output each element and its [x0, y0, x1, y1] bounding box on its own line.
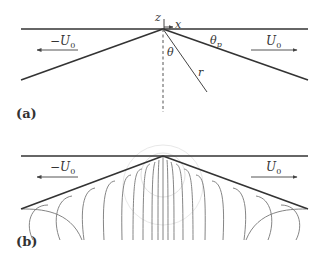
panel-a-label: (a) — [16, 106, 37, 121]
radius-line — [163, 29, 207, 92]
panel-b: −U0 U0 (b) — [0, 145, 327, 261]
right-velocity-label-b: U0 — [266, 160, 281, 176]
left-velocity-label: −U0 — [50, 34, 75, 50]
right-velocity-label: U0 — [266, 34, 281, 50]
z-label: z — [154, 11, 161, 24]
left-velocity-label-b: −U0 — [50, 160, 75, 176]
streamline-mask — [0, 240, 327, 261]
corner-flow-diagram: z x −U0 U0 θp θ r (a) — [0, 0, 327, 261]
theta-label: θ — [167, 46, 174, 59]
panel-b-label: (b) — [16, 234, 37, 249]
panel-a: z x −U0 U0 θp θ r (a) — [16, 11, 308, 121]
right-plate — [163, 29, 308, 80]
x-label: x — [175, 18, 182, 31]
left-plate-b — [21, 156, 163, 209]
left-plate — [21, 29, 163, 80]
theta-p-label: θp — [210, 34, 222, 49]
r-label: r — [198, 66, 204, 79]
right-plate-b — [163, 156, 308, 209]
